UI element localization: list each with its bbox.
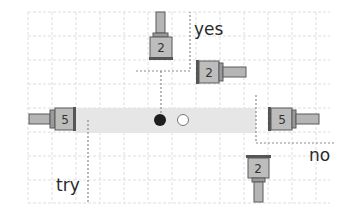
label-yes: yes	[194, 21, 223, 38]
empty-dot-marker[interactable]	[178, 115, 189, 126]
piece-left-number: 5	[61, 113, 69, 127]
piece-bottom-number: 2	[254, 162, 262, 176]
label-no: no	[309, 147, 330, 164]
piece-yes-2[interactable]: 2	[196, 60, 246, 84]
diagram-canvas: 5 2 2 5	[0, 0, 355, 224]
track-band	[76, 108, 256, 133]
filled-dot-marker[interactable]	[154, 114, 166, 126]
piece-right-number: 5	[278, 113, 286, 127]
label-try: try	[56, 177, 80, 194]
piece-right-5[interactable]: 5	[268, 107, 319, 131]
piece-top-number: 2	[157, 41, 165, 55]
piece-bottom-2[interactable]: 2	[246, 155, 271, 202]
diagram-svg: 5 2 2 5	[0, 0, 355, 224]
piece-left-5[interactable]: 5	[29, 107, 76, 131]
piece-yes-number: 2	[205, 66, 213, 80]
